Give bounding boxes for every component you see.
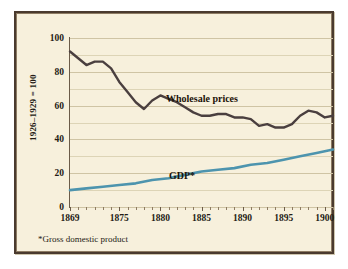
x-tick [144, 207, 145, 210]
x-tick [136, 207, 137, 210]
x-tick-label: 1875 [110, 213, 129, 223]
x-tick [218, 207, 219, 210]
x-tick [78, 207, 79, 210]
x-tick [128, 207, 129, 210]
x-tick [275, 207, 276, 210]
x-tick-label: 1885 [192, 213, 211, 223]
x-tick [234, 207, 235, 210]
x-tick [210, 207, 211, 210]
footnote: *Gross domestic product [38, 234, 128, 244]
x-tick [160, 207, 161, 211]
x-tick [103, 207, 104, 210]
x-tick [317, 207, 318, 210]
x-tick [251, 207, 252, 210]
x-tick [169, 207, 170, 210]
x-tick [202, 207, 203, 211]
x-tick [95, 207, 96, 210]
x-tick [86, 207, 87, 210]
x-tick [325, 207, 326, 211]
x-tick [185, 207, 186, 210]
x-tick [70, 207, 71, 211]
x-tick [111, 207, 112, 210]
x-tick [292, 207, 293, 210]
x-tick [300, 207, 301, 210]
y-tick-label: 40 [55, 134, 65, 144]
series-label-gdp: GDP* [169, 170, 195, 181]
x-tick [193, 207, 194, 210]
x-tick-label: 1869 [61, 213, 80, 223]
x-tick [152, 207, 153, 210]
x-tick [119, 207, 120, 211]
series-line-wholesale-prices [70, 52, 333, 128]
x-tick-label: 1880 [151, 213, 170, 223]
chart-frame: 1926–1929 = 100 020406080100 18691875188… [14, 11, 334, 254]
y-tick-label: 80 [55, 67, 65, 77]
x-tick [333, 207, 334, 210]
y-tick-label: 0 [59, 202, 64, 212]
x-tick [243, 207, 244, 211]
series-line-gdp [70, 150, 333, 191]
x-tick-label: 1895 [274, 213, 293, 223]
x-tick-label: 1890 [233, 213, 252, 223]
x-tick [284, 207, 285, 211]
x-tick [267, 207, 268, 210]
y-axis-label: 1926–1929 = 100 [28, 74, 38, 141]
y-tick-label: 20 [55, 168, 65, 178]
x-tick-label: 1900 [315, 213, 334, 223]
x-tick [308, 207, 309, 210]
x-tick [259, 207, 260, 210]
figure-root: 1926–1929 = 100 020406080100 18691875188… [0, 0, 348, 269]
y-tick-label: 100 [50, 33, 64, 43]
x-tick [226, 207, 227, 210]
series-lines [70, 38, 333, 207]
x-tick [177, 207, 178, 210]
series-label-wholesale-prices: Wholesale prices [166, 93, 238, 104]
plot-area: 020406080100 186918751880188518901895190… [70, 38, 333, 207]
y-tick-label: 60 [55, 101, 65, 111]
